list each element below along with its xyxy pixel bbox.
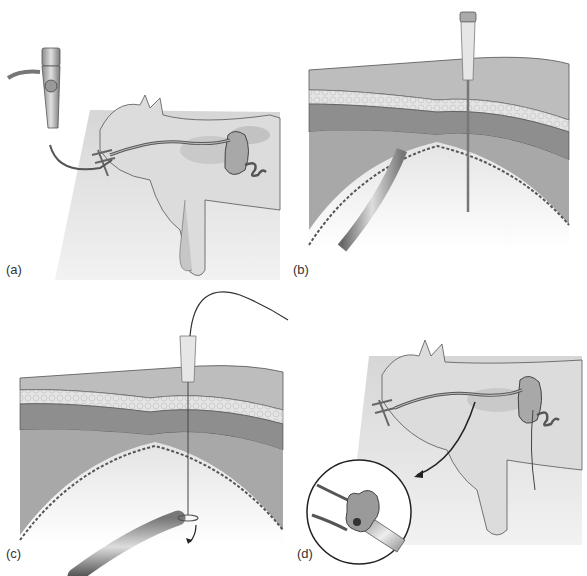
panel-b: (b) [297, 0, 587, 285]
panel-d: (d) [297, 290, 587, 576]
endoscope-handle [42, 66, 60, 128]
catheter-body [461, 22, 475, 80]
panel-a: (a) [0, 0, 290, 285]
panel-c-illustration [0, 290, 290, 576]
endoscope-control-knob [45, 80, 57, 92]
light-guide-cable [8, 72, 40, 78]
catheter [180, 336, 196, 382]
panel-c: (c) [0, 290, 290, 576]
panel-c-label: (c) [6, 546, 21, 561]
catheter-hub [460, 12, 476, 22]
tube-lumen-opening [353, 518, 361, 526]
inset-magnified-tube-tip [307, 460, 411, 564]
panel-d-illustration [297, 290, 587, 576]
guide-wire [190, 292, 288, 336]
panel-a-illustration [0, 0, 290, 285]
panel-d-label: (d) [297, 546, 313, 561]
stomach [225, 132, 249, 175]
panel-b-label: (b) [293, 262, 309, 277]
panel-a-label: (a) [6, 262, 22, 277]
stomach [518, 376, 541, 423]
endoscope-eyepiece [42, 48, 60, 66]
panel-b-illustration [297, 0, 587, 285]
